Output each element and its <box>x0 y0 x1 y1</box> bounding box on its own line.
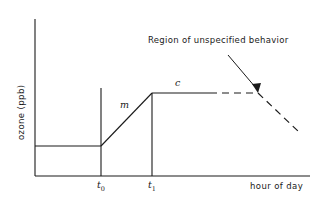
x-axis-label: hour of day <box>250 182 303 191</box>
tick-label-t1: t1 <box>148 180 156 192</box>
slope-label: m <box>120 100 129 110</box>
plot-canvas <box>0 0 328 200</box>
ozone-profile-figure: ozone (ppb) hour of day Region of unspec… <box>0 0 328 200</box>
annotation-arrow-head <box>252 83 261 93</box>
annotation-arrow-shaft <box>228 55 256 88</box>
tick-label-t0: t0 <box>97 180 105 192</box>
tick-label-t1-subscript: 1 <box>152 185 156 193</box>
tick-label-t0-subscript: 0 <box>101 185 105 193</box>
unspecified-behavior-annotation: Region of unspecified behavior <box>148 36 289 45</box>
y-axis-label: ozone (ppb) <box>17 85 26 140</box>
decline-dashed-segment <box>258 93 300 133</box>
plateau-label: c <box>175 78 180 88</box>
